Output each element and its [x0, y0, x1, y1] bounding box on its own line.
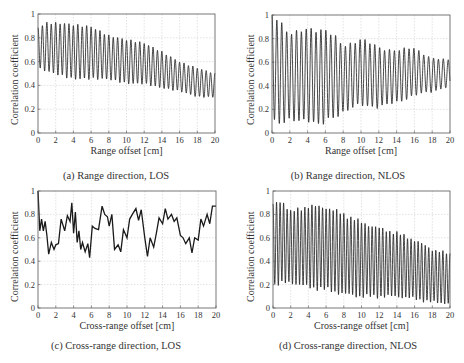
x-tick-label: 20: [446, 310, 455, 320]
y-axis-label-d: Correlation coefficient: [245, 211, 256, 302]
y-tick-label: 0.6: [24, 57, 35, 67]
x-tick-label: 8: [107, 310, 111, 320]
y-tick-label: 0.8: [258, 34, 269, 44]
y-tick-label: 0.4: [24, 80, 35, 90]
x-tick-label: 2: [289, 310, 293, 320]
y-tick-label: 0.4: [259, 256, 270, 266]
x-tick-label: 18: [428, 310, 437, 320]
y-axis-label-c: Correlation coefficient: [9, 211, 20, 302]
panel-c: 0246810121416182000.20.40.60.81 Correlat…: [0, 180, 232, 363]
x-tick-label: 4: [306, 310, 311, 320]
x-tick-label: 6: [89, 310, 93, 320]
x-tick-label: 8: [107, 135, 111, 145]
x-tick-label: 0: [270, 135, 274, 145]
x-axis-label-d: Cross-range offset [cm]: [273, 320, 450, 331]
x-tick-label: 2: [54, 310, 58, 320]
y-tick-label: 0: [265, 128, 269, 138]
y-tick-label: 0.6: [259, 233, 270, 243]
x-tick-label: 12: [375, 135, 384, 145]
x-axis-label-b: Range offset [cm]: [272, 145, 450, 156]
y-tick-label: 0.6: [258, 57, 269, 67]
x-tick-label: 8: [341, 135, 345, 145]
caption-c: (c) Cross-range direction, LOS: [0, 340, 232, 351]
caption-d: (d) Cross-range direction, NLOS: [232, 340, 464, 351]
x-tick-label: 4: [71, 135, 76, 145]
x-tick-label: 12: [141, 310, 150, 320]
y-tick-label: 0: [31, 303, 35, 313]
x-tick-label: 4: [305, 135, 310, 145]
x-tick-label: 6: [323, 135, 327, 145]
x-tick-label: 2: [288, 135, 292, 145]
y-tick-label: 0: [31, 128, 35, 138]
y-tick-label: 0.6: [24, 233, 35, 243]
x-tick-label: 20: [211, 135, 220, 145]
y-tick-label: 0.8: [24, 33, 35, 43]
y-axis-label-b: Correlation coefficient: [245, 34, 256, 125]
x-tick-label: 10: [123, 310, 132, 320]
y-tick-label: 0.2: [24, 280, 35, 290]
y-tick-label: 0.2: [258, 104, 269, 114]
x-tick-label: 14: [392, 135, 401, 145]
y-tick-label: 1: [31, 9, 35, 19]
x-tick-label: 10: [357, 135, 366, 145]
grid: [38, 14, 215, 133]
x-tick-label: 18: [428, 135, 437, 145]
axes-frame: [38, 14, 215, 133]
y-axis-label-a: Correlation coefficient: [9, 34, 20, 125]
y-tick-label: 0.2: [259, 280, 270, 290]
x-tick-label: 12: [375, 310, 384, 320]
x-axis-label-c: Cross-range offset [cm]: [38, 320, 216, 331]
y-tick-label: 0.8: [24, 209, 35, 219]
y-tick-label: 0.4: [258, 81, 269, 91]
x-tick-label: 10: [357, 310, 366, 320]
grid: [273, 191, 450, 308]
x-tick-label: 16: [175, 135, 184, 145]
x-tick-label: 20: [446, 135, 455, 145]
panel-a: 0246810121416182000.20.40.60.81 Correlat…: [0, 0, 232, 180]
x-tick-label: 0: [271, 310, 275, 320]
x-tick-label: 12: [140, 135, 149, 145]
x-tick-label: 14: [158, 135, 167, 145]
y-tick-label: 1: [266, 186, 270, 196]
x-tick-label: 6: [324, 310, 328, 320]
x-axis-label-a: Range offset [cm]: [38, 145, 215, 156]
x-tick-label: 6: [89, 135, 93, 145]
x-tick-label: 18: [193, 135, 202, 145]
x-tick-label: 2: [54, 135, 58, 145]
panel-d: 0246810121416182000.20.40.60.81 Correlat…: [232, 180, 464, 363]
x-tick-label: 20: [212, 310, 221, 320]
x-tick-label: 0: [36, 135, 40, 145]
y-tick-label: 1: [31, 186, 35, 196]
y-tick-label: 0: [266, 303, 270, 313]
y-tick-label: 0.2: [24, 104, 35, 114]
plot-d: 0246810121416182000.20.40.60.81: [232, 180, 464, 363]
x-tick-label: 0: [36, 310, 40, 320]
x-tick-label: 8: [342, 310, 346, 320]
grid: [38, 191, 216, 308]
panel-b: 0246810121416182000.20.40.60.81 Correlat…: [232, 0, 464, 180]
y-tick-label: 1: [265, 10, 269, 20]
y-tick-label: 0.8: [259, 209, 270, 219]
y-tick-label: 0.4: [24, 256, 35, 266]
data-series-line: [273, 202, 450, 304]
x-tick-label: 16: [176, 310, 185, 320]
plot-c: 0246810121416182000.20.40.60.81: [0, 180, 232, 363]
x-tick-label: 18: [194, 310, 203, 320]
x-tick-label: 10: [122, 135, 131, 145]
x-tick-label: 16: [410, 310, 419, 320]
x-tick-label: 16: [410, 135, 419, 145]
x-tick-label: 4: [71, 310, 76, 320]
x-tick-label: 14: [393, 310, 402, 320]
x-tick-label: 14: [158, 310, 167, 320]
